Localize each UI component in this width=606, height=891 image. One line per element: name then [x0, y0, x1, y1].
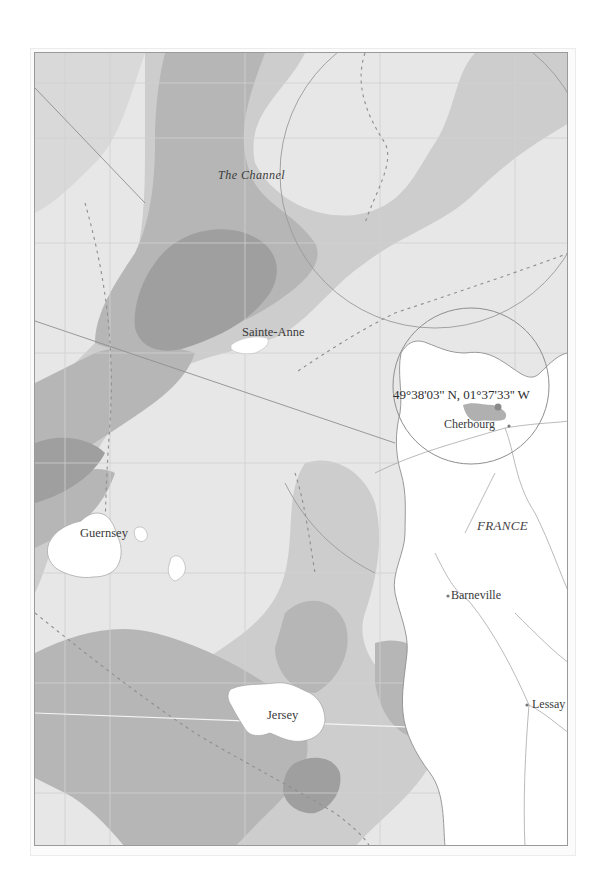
cherbourg-dot — [507, 424, 510, 427]
label-lessay: Lessay — [532, 698, 565, 710]
lessay-dot — [525, 703, 528, 706]
coordinate-label: 49°38'03'' N, 01°37'33'' W — [393, 388, 530, 401]
label-barneville: Barneville — [451, 589, 501, 601]
barneville-dot — [446, 594, 449, 597]
label-france: FRANCE — [477, 519, 528, 532]
label-guernsey: Guernsey — [80, 527, 128, 540]
label-jersey: Jersey — [267, 709, 298, 722]
map-graphic — [35, 53, 568, 846]
label-sainte-anne: Sainte-Anne — [242, 326, 304, 339]
coordinate-marker[interactable] — [495, 404, 502, 411]
map-canvas[interactable]: The Channel Sainte-Anne 49°38'03'' N, 01… — [34, 52, 568, 846]
label-cherbourg: Cherbourg — [444, 418, 495, 430]
label-the-channel: The Channel — [218, 169, 285, 181]
